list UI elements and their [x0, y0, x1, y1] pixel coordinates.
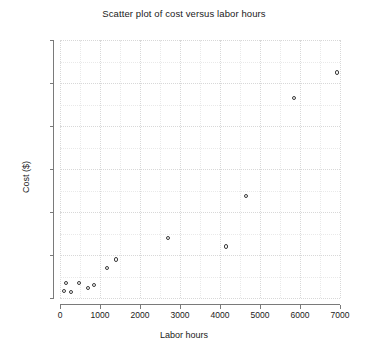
- x-axis-tick: [340, 305, 341, 309]
- chart-title: Scatter plot of cost versus labor hours: [0, 8, 368, 19]
- gridline-horizontal: [60, 169, 340, 170]
- x-axis-tick-label: 5000: [251, 310, 270, 320]
- scatter-point: [292, 96, 297, 101]
- x-axis-tick-label: 3000: [171, 310, 190, 320]
- gridline-horizontal: [60, 234, 340, 235]
- y-axis-label-text: Cost ($): [21, 160, 31, 192]
- y-axis-tick: [50, 126, 54, 127]
- x-axis-tick: [180, 305, 181, 309]
- scatter-point: [244, 194, 249, 199]
- y-axis-tick: [50, 83, 54, 84]
- y-axis-tick: [50, 298, 54, 299]
- scatter-point: [62, 289, 67, 294]
- y-axis-tick: [50, 40, 54, 41]
- y-axis-tick: [50, 255, 54, 256]
- y-axis-tick: [50, 169, 54, 170]
- x-axis-tick: [260, 305, 261, 309]
- y-axis-label: Cost ($): [10, 0, 42, 353]
- plot-panel: [60, 40, 340, 298]
- gridline-horizontal: [60, 62, 340, 63]
- gridline-vertical: [340, 40, 341, 298]
- gridline-horizontal: [60, 191, 340, 192]
- gridline-horizontal: [60, 298, 340, 299]
- y-axis-tick: [50, 212, 54, 213]
- scatter-point: [92, 283, 97, 288]
- scatter-point: [335, 70, 340, 75]
- x-axis-tick: [300, 305, 301, 309]
- x-axis-tick-label: 0: [58, 310, 63, 320]
- gridline-horizontal: [60, 83, 340, 84]
- x-axis-tick-label: 7000: [331, 310, 350, 320]
- x-axis-tick-label: 4000: [211, 310, 230, 320]
- scatter-point: [64, 281, 69, 286]
- x-axis-tick-label: 2000: [131, 310, 150, 320]
- gridline-horizontal: [60, 126, 340, 127]
- x-axis-tick: [140, 305, 141, 309]
- gridline-horizontal: [60, 212, 340, 213]
- gridline-horizontal: [60, 40, 340, 41]
- gridline-horizontal: [60, 277, 340, 278]
- x-axis: [60, 304, 340, 305]
- scatter-point: [114, 257, 119, 262]
- x-axis-tick: [60, 305, 61, 309]
- gridline-horizontal: [60, 148, 340, 149]
- x-axis-tick: [220, 305, 221, 309]
- y-axis: [53, 40, 54, 298]
- x-axis-tick-label: 1000: [91, 310, 110, 320]
- x-axis-tick-label: 6000: [291, 310, 310, 320]
- x-axis-label: Labor hours: [0, 330, 368, 340]
- scatter-point: [224, 244, 229, 249]
- scatter-point: [166, 236, 171, 241]
- scatter-plot-figure: Scatter plot of cost versus labor hours …: [0, 0, 368, 353]
- scatter-point: [105, 266, 110, 271]
- x-axis-tick: [100, 305, 101, 309]
- scatter-point: [86, 286, 91, 291]
- scatter-point: [69, 290, 74, 295]
- gridline-horizontal: [60, 255, 340, 256]
- gridline-horizontal: [60, 105, 340, 106]
